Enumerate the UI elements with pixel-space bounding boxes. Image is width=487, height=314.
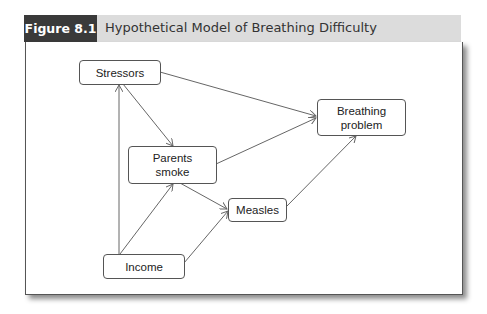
edge-income-parents xyxy=(120,184,173,254)
diagram-edges xyxy=(0,0,487,314)
node-breathing-problem: Breathing problem xyxy=(317,99,406,136)
node-measles-label: Measles xyxy=(236,203,279,217)
node-stressors: Stressors xyxy=(79,60,161,85)
node-parents-smoke: Parents smoke xyxy=(128,146,217,184)
edge-measles-breathing xyxy=(286,136,356,207)
node-breathing-label-1: Breathing xyxy=(337,104,386,118)
edge-stressors-breathing xyxy=(160,72,316,116)
node-income-label: Income xyxy=(125,260,163,274)
edge-income-measles xyxy=(184,211,228,263)
node-parents-label-2: smoke xyxy=(156,165,190,179)
node-income: Income xyxy=(103,254,185,279)
edge-parents-measles xyxy=(180,183,227,209)
node-parents-label-1: Parents xyxy=(153,151,193,165)
edge-stressors-parents xyxy=(123,84,173,146)
node-measles: Measles xyxy=(228,198,287,222)
node-stressors-label: Stressors xyxy=(96,66,145,80)
edge-parents-breathing xyxy=(216,118,316,164)
node-breathing-label-2: problem xyxy=(341,118,383,132)
